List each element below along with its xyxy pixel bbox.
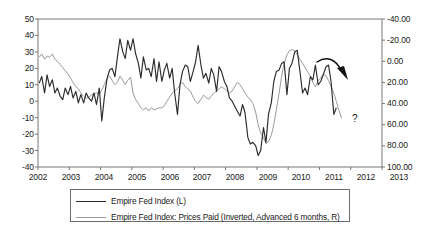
legend-swatch-dark [76,201,106,202]
y-right-tick-60: 60.00 [387,119,431,129]
y-right-tick-40: 40.00 [387,98,431,108]
legend-item-empire-fed-index: Empire Fed Index (L) [71,193,349,209]
chart-legend: Empire Fed Index (L) Empire Fed Index: P… [70,189,350,222]
x-tick-2011: 2011 [318,172,350,182]
series-line-empire-fed-index [39,39,336,156]
x-tick-2003: 2003 [55,172,87,182]
x-tick-2006: 2006 [154,172,186,182]
series-line-prices-paid [39,50,341,144]
y-right-tick-0: 0.00 [387,56,431,66]
x-tick-2007: 2007 [186,172,218,182]
y-right-tick-neg40: -40.00 [387,14,431,24]
x-tick-2013: 2013 [383,172,415,182]
y-left-tick-50: 50 [8,14,34,24]
series-group [39,39,341,156]
legend-label-prices-paid: Empire Fed Index: Prices Paid (Inverted,… [111,212,340,222]
y-right-tick-100: 100.00 [387,162,431,172]
x-tick-2009: 2009 [252,172,284,182]
x-tick-2012: 2012 [350,172,382,182]
x-tick-2005: 2005 [121,172,153,182]
y-left-tick-20: 20 [8,63,34,73]
question-mark-annotation: ? [352,113,358,124]
y-left-tick-neg10: -10 [8,113,34,123]
y-left-tick-neg40: -40 [8,162,34,172]
y-right-tick-20: 20.00 [387,77,431,87]
y-left-tick-30: 30 [8,47,34,57]
legend-swatch-light [76,217,106,218]
chart-root: 50 40 30 20 10 0 -10 -20 -30 -40 -40.00 … [0,0,439,235]
y-left-tick-10: 10 [8,80,34,90]
y-right-tick-80: 80.00 [387,140,431,150]
y-left-tick-40: 40 [8,30,34,40]
x-tick-2004: 2004 [88,172,120,182]
x-tick-2010: 2010 [285,172,317,182]
x-tick-2002: 2002 [22,172,54,182]
x-tick-2008: 2008 [219,172,251,182]
legend-label-empire-fed-index: Empire Fed Index (L) [111,196,186,206]
y-left-tick-0: 0 [8,96,34,106]
y-right-tick-neg20: -20.00 [387,35,431,45]
y-left-tick-neg30: -30 [8,146,34,156]
y-left-tick-neg20: -20 [8,129,34,139]
legend-item-prices-paid: Empire Fed Index: Prices Paid (Inverted,… [71,209,349,225]
